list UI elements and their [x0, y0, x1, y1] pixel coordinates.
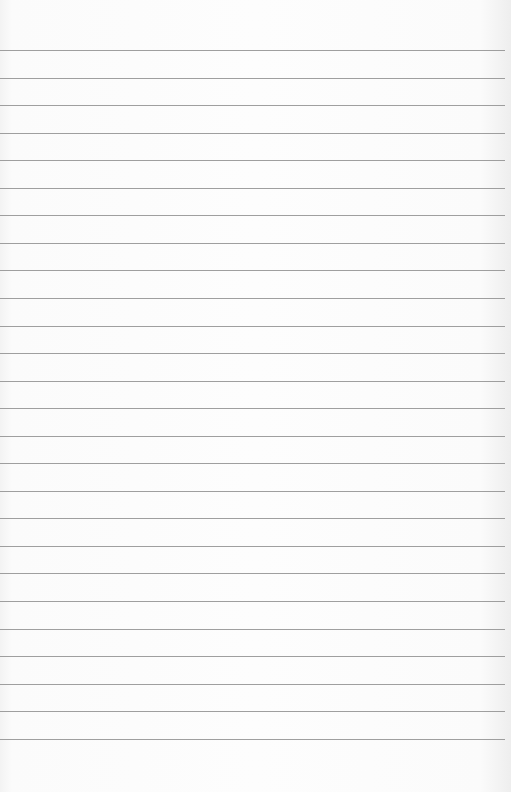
ruled-line	[0, 684, 505, 685]
ruled-line	[0, 353, 505, 354]
ruled-line	[0, 491, 505, 492]
ruled-line	[0, 133, 505, 134]
ruled-line	[0, 243, 505, 244]
ruled-line	[0, 188, 505, 189]
ruled-line	[0, 656, 505, 657]
ruled-line	[0, 160, 505, 161]
ruled-line	[0, 518, 505, 519]
ruled-line	[0, 546, 505, 547]
ruled-line	[0, 601, 505, 602]
ruled-line	[0, 381, 505, 382]
ruled-line	[0, 436, 505, 437]
ruled-line	[0, 711, 505, 712]
ruled-line	[0, 215, 505, 216]
ruled-line	[0, 105, 505, 106]
ruled-line	[0, 739, 505, 740]
ruled-line	[0, 408, 505, 409]
ruled-line	[0, 463, 505, 464]
lined-paper-page	[0, 0, 511, 792]
ruled-line	[0, 50, 505, 51]
ruled-line	[0, 78, 505, 79]
ruled-line	[0, 573, 505, 574]
ruled-line	[0, 326, 505, 327]
ruled-line	[0, 629, 505, 630]
ruled-line	[0, 298, 505, 299]
ruled-line	[0, 270, 505, 271]
